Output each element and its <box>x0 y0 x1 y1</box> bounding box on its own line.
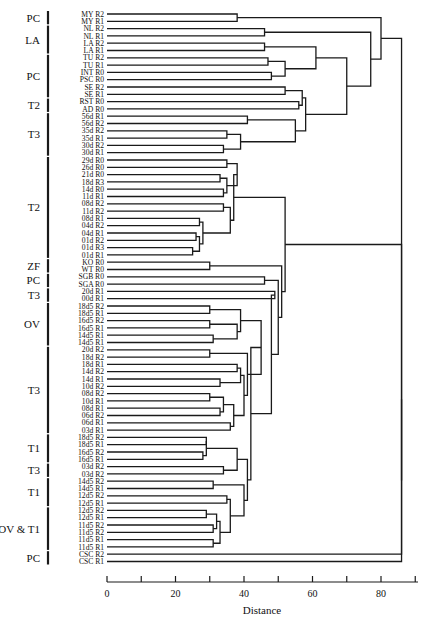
dendrogram-merge <box>107 262 210 269</box>
dendrogram-merge <box>107 131 227 138</box>
dendrogram-merge <box>107 496 227 503</box>
dendrogram-merge <box>107 525 213 532</box>
group-label: PC <box>27 552 40 564</box>
dendrogram-merge <box>107 14 237 21</box>
dendrogram-merge <box>107 364 237 371</box>
dendrogram-merge <box>107 189 223 196</box>
x-axis: 020406080 Distance <box>105 576 419 616</box>
dendrogram-merge <box>107 29 265 36</box>
dendrogram-merge <box>107 218 199 225</box>
dendrogram-merge <box>223 134 240 149</box>
dendrogram-merge <box>237 18 381 60</box>
group-label: PC <box>27 70 40 82</box>
group-label: OV <box>24 318 40 330</box>
x-tick-label: 80 <box>376 588 386 599</box>
dendrogram-merge <box>206 514 216 529</box>
dendrogram-merge <box>107 321 210 328</box>
dendrogram-merge <box>107 291 275 298</box>
dendrogram-merge <box>220 499 230 532</box>
group-label: T3 <box>28 464 41 476</box>
dendrogram-chart: PCLAPCT2T3T2ZFPCT3OVT3T1T3T1OV & T1PC MY… <box>0 0 422 624</box>
leaf-labels: MY R2MY R1NL R2NL R1LA R2LA R1TU R2TU R1… <box>78 10 104 567</box>
dendrogram-merge <box>107 481 213 488</box>
dendrogram-merge <box>107 43 265 50</box>
dendrogram-merge <box>107 350 210 357</box>
dendrogram-merge <box>107 437 206 444</box>
group-label: PC <box>27 274 40 286</box>
group-label: ZF <box>27 260 40 272</box>
dendrogram-merge <box>107 408 220 415</box>
dendrogram-merge <box>251 295 275 414</box>
dendrogram-merge <box>295 98 305 131</box>
dendrogram-merge <box>237 459 247 500</box>
dendrogram-merge <box>107 452 203 459</box>
dendrogram-merge <box>241 120 296 142</box>
dendrogram-merge <box>210 324 237 339</box>
dendrogram-merge <box>107 116 247 123</box>
dendrogram-merge <box>265 47 316 69</box>
dendrogram-merge <box>107 145 223 152</box>
dendrogram-merge <box>107 379 220 386</box>
dendrogram-merge <box>107 399 402 561</box>
dendrogram-merge <box>107 72 271 79</box>
group-label: LA <box>25 34 40 46</box>
dendrogram-merge <box>268 61 285 76</box>
group-label: T1 <box>28 486 40 498</box>
dendrogram-merge <box>234 375 244 415</box>
dendrogram-merge <box>306 58 347 115</box>
dendrogram-merge <box>107 394 210 401</box>
dendrogram-merge <box>285 91 302 106</box>
dendrogram-merge <box>107 204 223 211</box>
x-axis-title: Distance <box>243 604 282 616</box>
dendrogram-merge <box>210 397 224 412</box>
group-label: T2 <box>28 201 40 213</box>
dendrogram-branches <box>107 14 402 562</box>
dendrogram-merge <box>107 306 210 313</box>
dendrogram-merge <box>210 310 241 332</box>
x-tick-label: 40 <box>239 588 249 599</box>
dendrogram-merge <box>107 248 193 255</box>
dendrogram-merge <box>107 423 230 430</box>
dendrogram-merge <box>234 197 285 291</box>
dendrogram-merge <box>381 38 402 480</box>
dendrogram-merge <box>107 335 213 342</box>
x-tick-label: 0 <box>105 588 110 599</box>
dendrogram-merge <box>107 467 223 474</box>
x-tick-label: 20 <box>171 588 181 599</box>
dendrogram-merge <box>210 353 248 395</box>
dendrogram-merge <box>107 58 268 65</box>
group-label: T2 <box>28 99 40 111</box>
dendrogram-merge <box>107 233 196 240</box>
group-label: T3 <box>28 128 41 140</box>
group-label: T1 <box>28 442 40 454</box>
group-label: T3 <box>28 289 41 301</box>
dendrogram-merge <box>107 175 220 182</box>
x-tick-label: 60 <box>308 588 318 599</box>
x-axis-ticks: 020406080 <box>105 576 416 599</box>
dendrogram-merge <box>107 510 206 517</box>
dendrogram-merge <box>213 485 244 516</box>
dendrogram-merge <box>107 540 213 547</box>
leaf-label: CSC R1 <box>79 557 104 566</box>
group-labels: PCLAPCT2T3T2ZFPCT3OVT3T1T3T1OV & T1PC <box>0 12 40 564</box>
dendrogram-merge <box>107 160 227 167</box>
group-label: PC <box>27 12 40 24</box>
dendrogram-merge <box>265 32 371 86</box>
dendrogram-merge <box>107 87 285 94</box>
dendrogram-merge <box>107 277 265 284</box>
group-label: OV & T1 <box>0 523 40 535</box>
dendrogram-merge <box>107 102 299 109</box>
group-label: T3 <box>28 384 41 396</box>
